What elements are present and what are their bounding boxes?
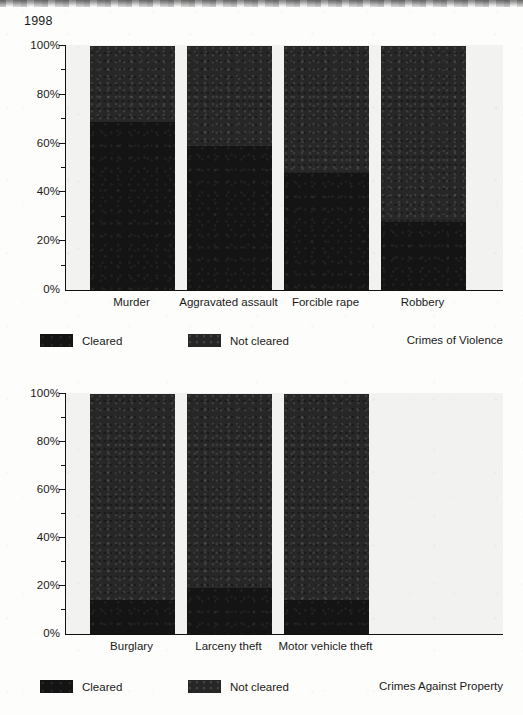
stacked-bar <box>284 46 369 290</box>
x-axis-category-label: Murder <box>77 296 186 310</box>
bar-segment-not-cleared <box>284 46 369 173</box>
bar-segment-cleared <box>90 122 175 290</box>
bar-segment-cleared <box>284 173 369 290</box>
plot-area-violence <box>65 45 503 291</box>
x-axis-category-label: Burglary <box>77 640 186 654</box>
y-axis-major-tick <box>59 489 66 490</box>
y-axis-minor-tick <box>61 513 66 514</box>
legend-label-cleared: Cleared <box>82 681 122 693</box>
x-axis-category-label: Motor vehicle theft <box>271 640 380 654</box>
stacked-bar <box>284 394 369 634</box>
y-axis-major-tick <box>59 537 66 538</box>
y-axis-minor-tick <box>61 265 66 266</box>
x-axis-category-label: Robbery <box>368 296 477 310</box>
y-axis-major-tick <box>59 143 66 144</box>
y-axis-major-tick <box>59 441 66 442</box>
y-axis-property: 0%20%40%60%80%100% <box>0 386 60 656</box>
y-tick-label: 40% <box>2 531 60 543</box>
y-axis-minor-tick <box>61 69 66 70</box>
bar-segment-cleared <box>284 600 369 634</box>
y-tick-label: 0% <box>2 283 60 295</box>
y-axis-violence: 0%20%40%60%80%100% <box>0 38 60 308</box>
y-tick-label: 100% <box>2 387 60 399</box>
panel-caption-violence: Crimes of Violence <box>407 334 503 346</box>
x-axis-category-label: Aggravated assault <box>174 296 283 310</box>
y-axis-major-tick <box>59 191 66 192</box>
bar-segment-not-cleared <box>90 46 175 122</box>
y-axis-minor-tick <box>61 216 66 217</box>
y-tick-label: 0% <box>2 627 60 639</box>
bar-segment-not-cleared <box>187 394 272 588</box>
scan-edge-artifact <box>0 0 523 7</box>
y-axis-major-tick <box>59 585 66 586</box>
stacked-bar <box>90 46 175 290</box>
stacked-bar <box>90 394 175 634</box>
y-tick-label: 20% <box>2 234 60 246</box>
y-axis-major-tick <box>59 240 66 241</box>
stacked-bar <box>187 46 272 290</box>
x-axis-category-label: Forcible rape <box>271 296 380 310</box>
bar-segment-not-cleared <box>90 394 175 600</box>
y-tick-label: 60% <box>2 137 60 149</box>
y-axis-major-tick <box>59 393 66 394</box>
bar-segment-cleared <box>187 588 272 634</box>
bar-segment-cleared <box>381 222 466 290</box>
legend-label-cleared: Cleared <box>82 335 122 347</box>
y-axis-minor-tick <box>61 609 66 610</box>
y-tick-label: 20% <box>2 579 60 591</box>
x-axis-category-label: Larceny theft <box>174 640 283 654</box>
legend-swatch-cleared-icon <box>40 680 73 693</box>
legend-label-not-cleared: Not cleared <box>230 335 289 347</box>
bar-segment-not-cleared <box>381 46 466 222</box>
y-tick-label: 40% <box>2 185 60 197</box>
legend-swatch-not-cleared-icon <box>188 680 221 693</box>
legend-label-not-cleared: Not cleared <box>230 681 289 693</box>
y-tick-label: 80% <box>2 88 60 100</box>
bar-segment-not-cleared <box>284 394 369 600</box>
y-tick-label: 100% <box>2 39 60 51</box>
stacked-bar <box>381 46 466 290</box>
y-axis-minor-tick <box>61 167 66 168</box>
bar-segment-not-cleared <box>187 46 272 146</box>
y-axis-minor-tick <box>61 465 66 466</box>
legend-swatch-not-cleared-icon <box>188 334 221 347</box>
plot-area-property <box>65 393 503 635</box>
y-axis-major-tick <box>59 45 66 46</box>
y-axis-minor-tick <box>61 118 66 119</box>
bar-segment-cleared <box>90 600 175 634</box>
y-tick-label: 80% <box>2 435 60 447</box>
y-axis-minor-tick <box>61 561 66 562</box>
stacked-bar <box>187 394 272 634</box>
y-tick-label: 60% <box>2 483 60 495</box>
bar-segment-cleared <box>187 146 272 290</box>
y-axis-minor-tick <box>61 417 66 418</box>
legend-swatch-cleared-icon <box>40 334 73 347</box>
y-axis-major-tick <box>59 94 66 95</box>
panel-caption-property: Crimes Against Property <box>379 680 503 692</box>
year-label: 1998 <box>24 14 53 28</box>
